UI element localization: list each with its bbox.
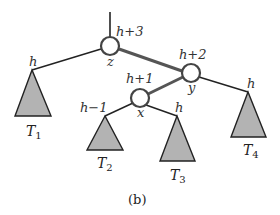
avl-tree-diagram: h+3 h+2 h+1 z y x h h−1 h h T1 T2 T3 T4 … [0,0,280,215]
subtree-T4-name: T4 [243,142,259,160]
edge-x-T3 [146,105,177,116]
subtree-T3-height: h [175,100,183,115]
subtree-T2-height: h−1 [80,100,108,115]
edge-x-T2 [105,103,133,116]
figure-caption: (b) [128,192,146,207]
node-z-height: h+3 [116,24,144,39]
node-x-label: x [137,105,145,120]
subtree-T1-name: T1 [26,123,42,141]
edge-z-y [119,49,182,71]
subtree-T4-height: h [247,76,255,91]
node-y-label: y [187,80,196,95]
node-x-height: h+1 [126,71,154,86]
edge-y-T4 [199,77,248,92]
node-z-label: z [106,54,114,69]
subtree-T3 [160,116,195,161]
subtree-T2 [87,116,123,150]
node-z [101,37,119,55]
subtree-T1 [15,70,51,116]
subtree-T4 [231,92,266,137]
node-y-height: h+2 [179,47,207,62]
subtree-T3-name: T3 [170,167,186,185]
subtree-T2-name: T2 [97,155,113,173]
subtree-T1-height: h [29,54,37,69]
edge-z-T1 [32,49,101,70]
